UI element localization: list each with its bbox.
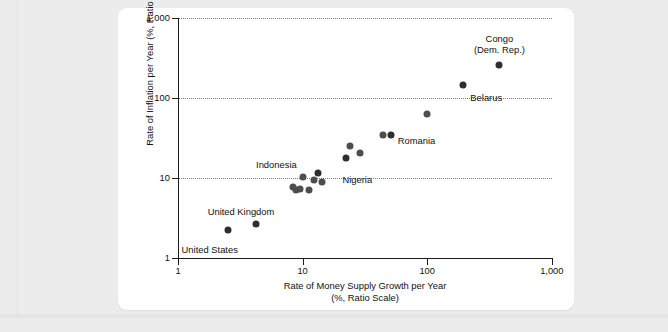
y-tick-label-text: 1	[110, 253, 170, 263]
data-point-united-states	[224, 227, 231, 234]
y-tick-label-10: 10	[110, 178, 170, 188]
x-axis-title-line2: (%, Ratio Scale)	[178, 292, 552, 304]
data-point-5	[299, 174, 306, 181]
x-axis-line	[178, 258, 552, 259]
y-tick-label-text: 1,000	[110, 13, 170, 23]
scatter-plot: 1101001,000 1101001,000 United StatesUni…	[118, 8, 574, 310]
point-label-congo: Congo(Dem. Rep.)	[474, 33, 525, 55]
x-axis-title: Rate of Money Supply Growth per Year (%,…	[178, 280, 552, 304]
x-tick-1000	[552, 258, 553, 265]
y-tick-100	[172, 98, 179, 99]
y-axis-title: Rate of Inflation per Year (%, Ratio Sca…	[144, 0, 156, 159]
x-tick-10	[303, 258, 304, 265]
x-tick-label-1000: 1,000	[522, 266, 582, 276]
x-tick-label-10: 10	[273, 266, 333, 276]
data-point-15	[424, 111, 431, 118]
y-tick-10	[172, 178, 179, 179]
y-tick-label-text: 100	[110, 93, 170, 103]
point-label-nigeria: Nigeria	[342, 174, 372, 185]
data-point-4	[297, 185, 304, 192]
page-spine-line	[17, 0, 18, 332]
data-point-indonesia	[315, 169, 322, 176]
y-axis-title-text: Rate of Inflation per Year (%, Ratio Sca…	[144, 0, 155, 146]
y-tick-label-1000: 1,000	[110, 18, 170, 28]
x-tick-label-100: 100	[397, 266, 457, 276]
y-tick-1000	[172, 18, 179, 19]
data-point-congo	[496, 62, 503, 69]
point-label-line: Nigeria	[342, 174, 372, 185]
y-tick-label-100: 100	[110, 98, 170, 108]
x-tick-label-1: 1	[148, 266, 208, 276]
data-point-12	[357, 149, 364, 156]
data-point-6	[306, 187, 313, 194]
point-label-belarus: Belarus	[470, 92, 502, 103]
x-tick-100	[427, 258, 428, 265]
point-label-romania: Romania	[398, 135, 436, 146]
gridline-1000	[178, 18, 552, 19]
point-label-line: United States	[182, 244, 238, 255]
data-point-7	[310, 176, 317, 183]
y-axis-line	[178, 18, 179, 258]
point-label-line: Romania	[398, 135, 436, 146]
y-tick-label-text: 10	[110, 173, 170, 183]
data-point-nigeria	[343, 155, 350, 162]
point-label-united-kingdom: United Kingdom	[208, 206, 275, 217]
data-point-9	[319, 178, 326, 185]
figure-card: 1101001,000 1101001,000 United StatesUni…	[118, 8, 574, 310]
x-axis-title-line1: Rate of Money Supply Growth per Year	[178, 280, 552, 292]
point-label-line: United Kingdom	[208, 206, 275, 217]
data-point-united-kingdom	[252, 221, 259, 228]
data-point-romania	[387, 132, 394, 139]
data-point-11	[346, 142, 353, 149]
data-point-belarus	[460, 81, 467, 88]
page-bottom-margin	[0, 318, 668, 332]
point-label-line: (Dem. Rep.)	[474, 44, 525, 55]
point-label-united-states: United States	[182, 244, 238, 255]
data-point-13	[379, 132, 386, 139]
point-label-line: Indonesia	[256, 159, 297, 170]
point-label-indonesia: Indonesia	[256, 159, 297, 170]
point-label-line: Congo	[474, 33, 525, 44]
point-label-line: Belarus	[470, 92, 502, 103]
x-tick-1	[178, 258, 179, 265]
